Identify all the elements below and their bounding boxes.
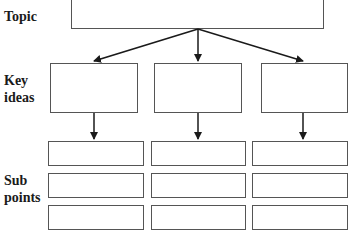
- arrow-topic-to-key-idea-1: [94, 29, 198, 61]
- connector-arrows: [0, 0, 349, 234]
- arrow-topic-to-key-idea-3: [198, 29, 303, 61]
